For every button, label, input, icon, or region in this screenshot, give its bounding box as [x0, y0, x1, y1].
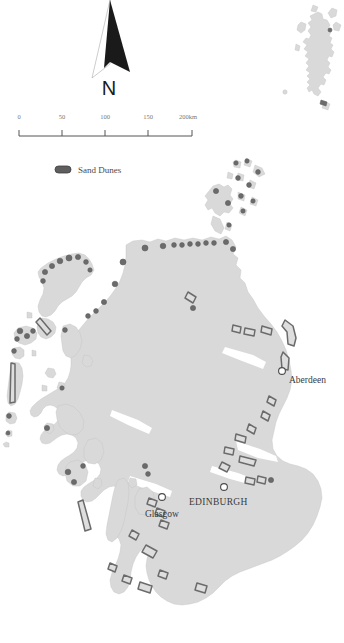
dune-fife-1 — [224, 447, 234, 455]
dune-north-coast-8 — [212, 241, 217, 246]
dune-north-coast-1 — [142, 245, 148, 251]
dune-north-coast-5 — [188, 242, 193, 247]
dune-orkney-9 — [245, 159, 249, 163]
dune-orkney-6 — [239, 194, 244, 199]
glasgow-dot — [159, 494, 166, 501]
dune-lothian-1 — [245, 477, 255, 485]
dune-caithness-1 — [230, 246, 235, 251]
scale-tick-100: 100 — [100, 113, 110, 120]
legend-item-sand-dunes: Sand Dunes — [55, 165, 122, 175]
dune-machrihanish — [78, 500, 91, 531]
north-arrow-right-half — [110, 0, 130, 72]
isle-of-rum — [45, 368, 56, 378]
dune-nw-coast-4 — [94, 309, 99, 314]
scale-tick-150: 150 — [143, 113, 153, 120]
hebrides-small-isle-b — [32, 350, 36, 356]
dune-lothian-3 — [268, 477, 273, 482]
dune-north-uist-2 — [24, 333, 29, 338]
dune-islay-1 — [65, 469, 71, 475]
scale-tick-50: 50 — [59, 113, 66, 120]
dune-dornoch-2 — [190, 305, 195, 310]
edinburgh-label: EDINBURGH — [189, 497, 248, 507]
dune-south-uist-west-machair — [10, 363, 15, 403]
dune-orkney-3 — [236, 176, 241, 181]
dune-north-coast-6 — [196, 242, 201, 247]
dune-orkney-4 — [247, 183, 252, 188]
north-arrow-label: N — [102, 77, 116, 99]
dune-lewis-8 — [41, 279, 46, 284]
dune-fraserburgh — [282, 320, 296, 346]
glasgow-label: Glasgow — [145, 509, 179, 519]
dune-islay-3 — [81, 464, 86, 469]
dune-north-coast-7 — [204, 241, 209, 246]
dune-orkney-8 — [234, 161, 238, 165]
dune-lewis-4 — [49, 263, 54, 268]
dune-shetland-east — [328, 28, 332, 32]
orkney-eday — [227, 172, 233, 179]
dune-orkney-11 — [241, 209, 245, 213]
aberdeen-label: Aberdeen — [289, 375, 326, 385]
dune-north-coast-4 — [180, 243, 185, 248]
shetland-small-isle-a — [295, 44, 300, 51]
dune-barra-1 — [7, 414, 12, 419]
foula-island — [283, 90, 287, 94]
map-container: N 0 50 100 150 200km Sand Dunes — [0, 0, 344, 643]
dune-north-coast-2 — [160, 243, 166, 249]
dune-north-coast-3 — [172, 243, 177, 248]
dune-islay-2 — [71, 479, 76, 484]
dune-tiree — [44, 425, 49, 430]
dune-orkney-1 — [213, 188, 218, 193]
dune-orkney-7 — [251, 199, 255, 203]
legend-label-sand-dunes: Sand Dunes — [78, 165, 122, 175]
hebrides-small-isle — [27, 312, 32, 318]
dune-north-uist-4 — [31, 329, 36, 334]
sand-dunes-symbol — [55, 166, 71, 173]
dune-lewis-7 — [88, 268, 92, 272]
orkney-islands — [205, 158, 265, 234]
dune-nw-coast-2 — [112, 281, 118, 287]
dune-orkney-10 — [227, 223, 231, 227]
dune-nw-coast-3 — [101, 299, 106, 304]
north-arrow: N — [92, 0, 130, 99]
dune-benbecula-1 — [12, 349, 17, 354]
shetland-unst — [333, 22, 341, 31]
dune-eigg — [60, 386, 64, 390]
scotland-sand-dunes-map: N 0 50 100 150 200km Sand Dunes — [0, 0, 344, 643]
dune-moray-2 — [244, 328, 255, 336]
orkney-hoy — [211, 216, 224, 234]
shetland-north-isle — [311, 5, 318, 12]
dune-lewis-2 — [57, 258, 63, 264]
dune-lothian-2 — [257, 476, 266, 484]
dune-vatersay-1 — [6, 431, 10, 435]
scale-bar: 0 50 100 150 200km — [17, 113, 197, 136]
dune-galloway-2 — [138, 582, 152, 593]
dune-orkney-5 — [256, 170, 261, 175]
aberdeen-dot — [279, 368, 286, 375]
shetland-islands — [283, 5, 341, 110]
dune-lewis-1 — [66, 255, 72, 261]
dune-lewis-6 — [42, 269, 47, 274]
dune-ayr-1 — [142, 463, 147, 468]
legend: Sand Dunes — [55, 165, 122, 175]
dune-north-uist-1 — [17, 328, 23, 334]
isle-of-canna — [42, 385, 47, 391]
dune-nw-coast-5 — [86, 314, 91, 319]
dune-orkney-2 — [225, 200, 230, 205]
scale-bar-line — [19, 130, 192, 136]
scale-tick-200: 200km — [179, 113, 197, 120]
dune-shetland-south — [320, 100, 327, 106]
dune-lewis-5 — [84, 260, 89, 265]
edinburgh-dot — [221, 484, 228, 491]
dune-skye-1 — [63, 328, 68, 333]
dune-lewis-3 — [75, 254, 80, 259]
dune-north-uist-3 — [15, 337, 20, 342]
dune-north-coast-9 — [223, 239, 228, 244]
orkney-mainland — [205, 184, 233, 216]
shetland-yell — [328, 8, 337, 18]
dune-nw-coast-1 — [120, 259, 126, 265]
shetland-mainland — [303, 12, 334, 96]
scale-tick-0: 0 — [17, 113, 20, 120]
shetland-west-island — [297, 22, 306, 33]
dune-moray-1 — [232, 325, 241, 333]
dune-ayr-2 — [146, 472, 151, 477]
